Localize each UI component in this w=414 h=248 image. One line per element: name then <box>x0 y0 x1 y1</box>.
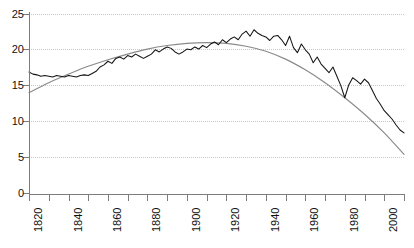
x-tick-label-1940: 1940 <box>270 208 281 232</box>
x-tick-label-1960: 1960 <box>309 208 320 232</box>
x-tick-label-1920: 1920 <box>230 208 241 232</box>
x-tick-labels: 1820184018601880190019201940196019802000 <box>0 0 414 248</box>
x-tick-label-1840: 1840 <box>73 208 84 232</box>
x-tick-label-1900: 1900 <box>191 208 202 232</box>
x-tick-label-2000: 2000 <box>388 208 399 232</box>
chart-root: 25 20 15 10 5 0 182018401860188019001920… <box>0 0 414 248</box>
x-tick-label-1880: 1880 <box>151 208 162 232</box>
x-tick-label-1980: 1980 <box>349 208 360 232</box>
x-tick-label-1820: 1820 <box>33 208 44 232</box>
x-tick-label-1860: 1860 <box>112 208 123 232</box>
